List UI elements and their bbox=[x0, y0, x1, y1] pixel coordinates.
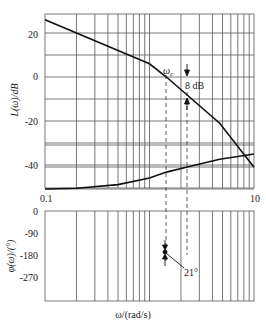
magnitude-grid bbox=[45, 14, 254, 188]
phase-tick-minus180: -180 bbox=[20, 250, 38, 261]
gain-margin-label: 8 dB bbox=[185, 80, 205, 91]
phase-tick-minus270: -270 bbox=[20, 272, 38, 283]
phase-ylabel: φ(ω)/(°) bbox=[5, 239, 17, 272]
mag-tick-minus20: -20 bbox=[25, 116, 38, 127]
phase-margin-label: 21° bbox=[184, 267, 198, 278]
x-axis-label: ω/(rad/s) bbox=[115, 309, 150, 321]
mag-tick-20: 20 bbox=[28, 29, 38, 40]
mag-ylabel: L(ω)/dB bbox=[9, 83, 21, 117]
bode-plot: 20 0 -20 -40 0.1 10 0 -90 -180 -270 L(ω)… bbox=[0, 0, 266, 327]
x-tick-min: 0.1 bbox=[40, 193, 53, 204]
mag-tick-0: 0 bbox=[33, 71, 38, 82]
phase-tick-minus90: -90 bbox=[25, 228, 38, 239]
mag-tick-minus40: -40 bbox=[25, 160, 38, 171]
phase-tick-0: 0 bbox=[33, 206, 38, 217]
x-tick-max: 10 bbox=[250, 193, 260, 204]
